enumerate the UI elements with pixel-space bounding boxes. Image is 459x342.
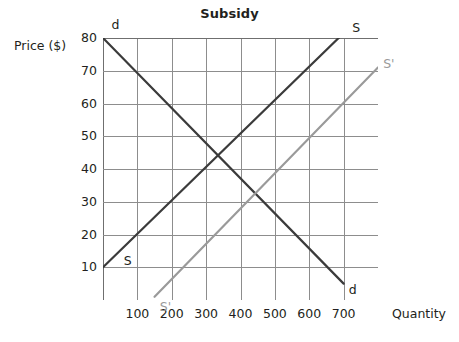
chart-title: Subsidy (0, 6, 459, 21)
curve-label-supply: S (124, 255, 132, 267)
y-tick-label: 80 (63, 32, 97, 44)
plot-area (103, 38, 378, 300)
y-tick-label: 10 (63, 261, 97, 273)
y-tick-label: 20 (63, 229, 97, 241)
y-tick-label: 30 (63, 196, 97, 208)
y-tick-label: 50 (63, 130, 97, 142)
curve-label-supply-after-subsidy: S' (383, 58, 394, 70)
curve-demand (103, 38, 344, 284)
curve-label-demand: d (112, 19, 120, 31)
data-curves (103, 38, 378, 297)
x-axis-label: Quantity (392, 306, 446, 321)
y-tick-label: 40 (63, 163, 97, 175)
y-tick-label: 70 (63, 65, 97, 77)
curve-label-supply-after-subsidy: S' (160, 301, 171, 313)
chart-root: Subsidy Price ($) Quantity 1020304050607… (0, 0, 459, 342)
plot-svg (103, 38, 378, 300)
y-axis-label: Price ($) (14, 38, 66, 53)
curve-label-supply: S (352, 22, 360, 34)
curve-supply (103, 38, 345, 267)
gridlines (103, 38, 378, 300)
x-tick-label: 700 (324, 308, 364, 320)
y-tick-label: 60 (63, 98, 97, 110)
curve-label-demand: d (349, 284, 357, 296)
